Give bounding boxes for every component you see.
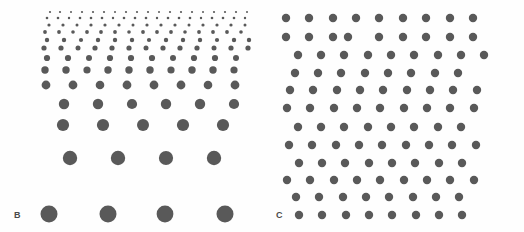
dot: [317, 51, 325, 59]
dot: [229, 23, 232, 26]
dot: [83, 66, 90, 73]
dot: [470, 104, 478, 112]
dot: [308, 141, 316, 149]
dot: [246, 11, 248, 13]
dot: [134, 17, 137, 20]
dot: [113, 30, 117, 34]
dot: [96, 81, 105, 90]
dot: [402, 141, 410, 149]
dot: [458, 211, 466, 219]
dot: [353, 104, 361, 112]
dot: [45, 38, 49, 42]
dot: [230, 66, 237, 73]
dot: [449, 86, 457, 94]
dot: [59, 99, 69, 109]
dot: [57, 17, 60, 20]
dot: [409, 193, 417, 201]
dot: [434, 123, 442, 131]
dot: [123, 81, 132, 90]
dot: [469, 14, 477, 22]
dot: [79, 38, 83, 42]
dot: [435, 211, 443, 219]
dot: [446, 14, 454, 22]
dot: [212, 55, 218, 61]
dot: [183, 30, 187, 34]
dot: [147, 11, 149, 13]
dot: [387, 51, 395, 59]
dot: [47, 23, 50, 26]
dot: [157, 206, 174, 223]
dot: [231, 81, 240, 90]
dot: [285, 141, 293, 149]
dot: [411, 159, 419, 167]
dot: [235, 11, 237, 13]
dot: [69, 81, 78, 90]
dot: [306, 104, 314, 112]
dot: [167, 17, 170, 20]
dot: [365, 159, 373, 167]
dot: [473, 86, 481, 94]
dot: [144, 46, 149, 51]
dot: [294, 123, 302, 131]
dot: [361, 69, 369, 77]
dot: [127, 99, 137, 109]
dot: [207, 151, 221, 165]
dot: [403, 86, 411, 94]
dot: [41, 66, 48, 73]
dot: [197, 30, 201, 34]
dot: [454, 69, 462, 77]
dot: [125, 66, 132, 73]
dot: [233, 55, 239, 61]
dot: [379, 86, 387, 94]
dot: [188, 66, 195, 73]
dot: [62, 38, 66, 42]
dot: [306, 176, 314, 184]
dot: [340, 51, 348, 59]
dot: [59, 11, 61, 13]
dot: [233, 17, 236, 20]
dot: [378, 141, 386, 149]
dot: [178, 17, 181, 20]
dot: [217, 206, 234, 223]
dot: [117, 23, 120, 26]
dot: [318, 211, 326, 219]
dot: [159, 151, 173, 165]
dot: [200, 17, 202, 19]
panel-c-dotfield: [262, 0, 524, 232]
dot: [244, 17, 246, 19]
dot: [146, 66, 153, 73]
dot: [42, 81, 51, 90]
dot: [89, 23, 92, 26]
dot: [410, 123, 418, 131]
dot: [399, 14, 407, 22]
dot: [315, 193, 323, 201]
dot: [61, 23, 64, 26]
dot: [352, 14, 360, 22]
dot: [222, 17, 225, 20]
dot: [432, 193, 440, 201]
dot: [104, 66, 111, 73]
dot: [170, 55, 176, 61]
dot: [93, 99, 103, 109]
dot: [339, 193, 347, 201]
dot: [177, 119, 189, 131]
dot: [125, 11, 127, 13]
dot: [76, 24, 79, 27]
dot: [99, 30, 103, 34]
dot: [127, 30, 131, 34]
dot: [282, 14, 290, 22]
dot: [90, 17, 93, 20]
dot: [137, 119, 149, 131]
dot: [71, 30, 75, 34]
dot: [480, 51, 488, 59]
dot: [92, 45, 97, 50]
dot: [49, 11, 51, 13]
dot: [212, 46, 217, 51]
dot: [189, 17, 192, 20]
dot: [425, 141, 433, 149]
dot: [173, 23, 176, 26]
dot: [188, 24, 191, 27]
dot: [305, 14, 313, 22]
dot: [225, 30, 229, 34]
dot: [400, 176, 408, 184]
